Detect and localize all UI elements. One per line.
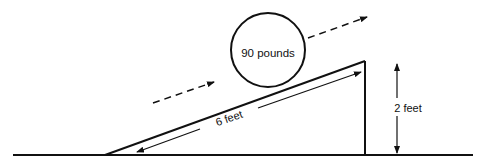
ramp-surface (105, 61, 365, 155)
diagram-canvas: 6 feet 2 feet 90 pounds (0, 0, 480, 165)
ramp-length-label: 6 feet (214, 108, 244, 128)
weight-label: 90 pounds (241, 47, 295, 59)
ramp-height-label: 2 feet (394, 102, 422, 114)
motion-arrow-right (308, 17, 367, 38)
inclined-plane-diagram: 6 feet 2 feet 90 pounds (0, 0, 480, 165)
motion-arrow-left (153, 82, 214, 103)
